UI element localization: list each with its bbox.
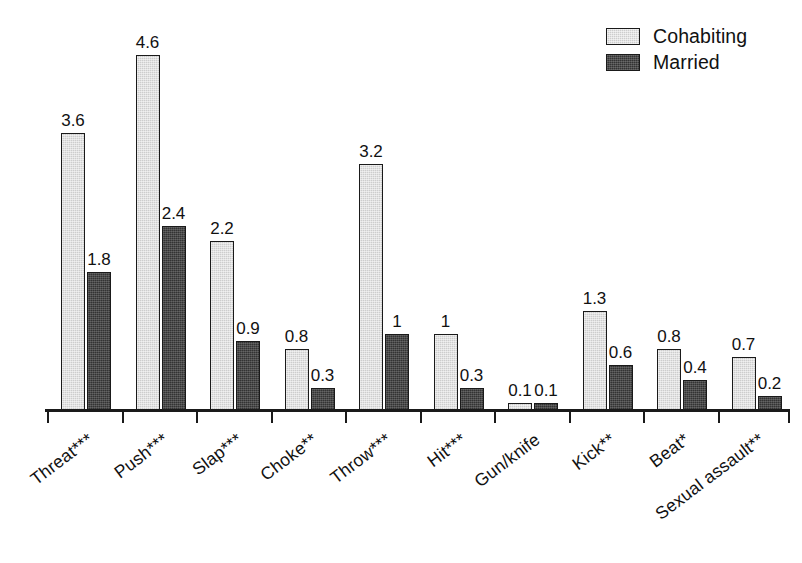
bar-group: 4.62.4: [120, 40, 195, 411]
x-axis-tick: [643, 412, 645, 423]
bar-rect: [285, 349, 309, 411]
x-axis-tick: [196, 412, 198, 423]
bar-group: 0.10.1: [492, 40, 567, 411]
x-axis-tick: [718, 412, 720, 423]
bar-group: 3.61.8: [45, 40, 120, 411]
x-axis-label: Throw***: [326, 429, 395, 488]
bar-married: 0.1: [534, 381, 558, 411]
bar-value-label: 1: [392, 313, 401, 330]
bar-chart-figure: Cohabiting Married 3.61.84.62.42.20.90.8…: [0, 0, 802, 563]
bar-value-label: 0.1: [508, 382, 532, 399]
bar-rect: [136, 55, 160, 411]
bar-cohabiting: 3.6: [61, 111, 85, 411]
bar-cohabiting: 1: [434, 312, 458, 411]
bar-rect: [434, 334, 458, 411]
bar-cohabiting: 4.6: [136, 33, 160, 411]
bar-group: 0.70.2: [716, 40, 791, 411]
x-axis-line: [45, 409, 790, 412]
bar-group: 2.20.9: [194, 40, 269, 411]
x-axis-tick: [345, 412, 347, 423]
bar-value-label: 0.6: [609, 344, 633, 361]
bar-value-label: 1: [441, 313, 450, 330]
bar-rect: [236, 341, 260, 411]
bar-rect: [87, 272, 111, 411]
plot-area: 3.61.84.62.42.20.90.80.33.2110.30.10.11.…: [45, 40, 790, 411]
bar-married: 1: [385, 312, 409, 411]
bar-value-label: 0.1: [534, 382, 558, 399]
bar-cohabiting: 1.3: [583, 289, 607, 411]
bar-married: 0.6: [609, 343, 633, 411]
bar-value-label: 0.4: [683, 359, 707, 376]
bar-rect: [583, 311, 607, 411]
bar-rect: [460, 388, 484, 411]
bar-married: 2.4: [162, 204, 186, 412]
bar-rect: [385, 334, 409, 411]
bar-cohabiting: 0.8: [285, 327, 309, 411]
bar-value-label: 1.3: [583, 290, 607, 307]
bar-cohabiting: 2.2: [210, 219, 234, 411]
bar-rect: [359, 164, 383, 411]
bar-married: 0.3: [460, 366, 484, 411]
x-axis-tick: [420, 412, 422, 423]
bar-value-label: 0.7: [732, 336, 756, 353]
bar-value-label: 1.8: [87, 251, 111, 268]
bar-group: 0.80.3: [269, 40, 344, 411]
bar-rect: [311, 388, 335, 411]
bar-group: 3.21: [343, 40, 418, 411]
bar-value-label: 2.2: [210, 220, 234, 237]
x-axis-label: Hit***: [423, 429, 470, 472]
x-axis-label: Threat***: [27, 429, 98, 490]
bar-group: 0.80.4: [641, 40, 716, 411]
x-axis-tick: [569, 412, 571, 423]
bar-cohabiting: 0.7: [732, 335, 756, 411]
bar-cohabiting: 0.1: [508, 381, 532, 411]
x-axis-label: Gun/knife: [470, 429, 544, 492]
bar-group: 1.30.6: [567, 40, 642, 411]
bar-value-label: 2.4: [162, 205, 186, 222]
x-axis-label: Slap***: [188, 429, 246, 480]
bar-rect: [61, 133, 85, 411]
bar-married: 0.2: [758, 374, 782, 411]
bar-value-label: 0.9: [236, 320, 260, 337]
x-axis-label: Beat*: [646, 429, 694, 472]
bar-value-label: 0.3: [311, 367, 335, 384]
bar-married: 1.8: [87, 250, 111, 411]
bar-married: 0.9: [236, 319, 260, 411]
x-axis-label: Choke**: [256, 429, 321, 485]
bar-value-label: 0.8: [657, 328, 681, 345]
bar-value-label: 4.6: [136, 34, 160, 51]
bar-married: 0.4: [683, 358, 707, 411]
bar-value-label: 3.2: [359, 143, 383, 160]
x-axis-label: Kick**: [568, 429, 619, 475]
bar-value-label: 0.8: [285, 328, 309, 345]
bar-rect: [657, 349, 681, 411]
x-axis-tick: [494, 412, 496, 423]
bar-cohabiting: 3.2: [359, 142, 383, 411]
bar-rect: [210, 241, 234, 411]
bar-rect: [683, 380, 707, 411]
bar-cohabiting: 0.8: [657, 327, 681, 411]
bar-group: 10.3: [418, 40, 493, 411]
x-axis-tick: [47, 412, 49, 423]
bar-rect: [609, 365, 633, 411]
bar-value-label: 3.6: [61, 112, 85, 129]
bar-value-label: 0.3: [460, 367, 484, 384]
bar-value-label: 0.2: [758, 375, 782, 392]
x-axis-tick: [788, 412, 790, 423]
bar-married: 0.3: [311, 366, 335, 411]
x-axis-label: Push***: [110, 429, 172, 483]
x-axis-tick: [271, 412, 273, 423]
bar-rect: [162, 226, 186, 412]
x-axis-tick: [122, 412, 124, 423]
bar-rect: [732, 357, 756, 411]
